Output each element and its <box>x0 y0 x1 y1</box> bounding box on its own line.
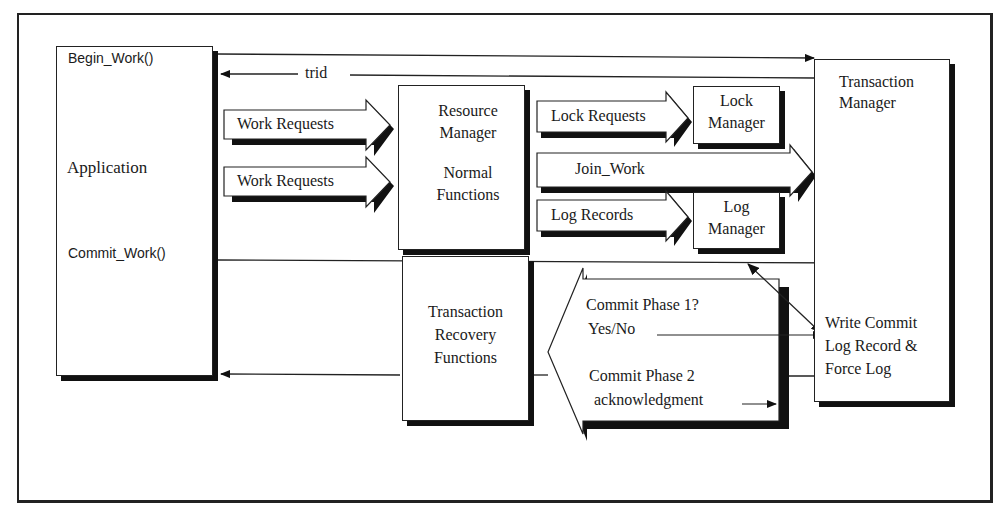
diagram-canvas: Begin_Work() Application Commit_Work() t… <box>0 0 1005 526</box>
recovery-line1: Transaction <box>402 300 529 323</box>
recovery-line2: Recovery <box>402 323 529 346</box>
lock-requests-label: Lock Requests <box>551 107 646 125</box>
lock-manager-line2: Manager <box>693 112 780 134</box>
normal-functions-line2: Functions <box>398 184 538 206</box>
log-manager-label: Log Manager <box>693 196 780 240</box>
write-commit-line1: Write Commit <box>825 311 917 334</box>
recovery-line3: Functions <box>402 346 529 369</box>
log-manager-line2: Manager <box>693 218 780 240</box>
application-label: Application <box>67 158 147 178</box>
commit-phase-arrow <box>548 268 789 441</box>
transaction-manager-label: Transaction Manager <box>839 71 914 113</box>
resource-manager-line2: Manager <box>398 122 538 144</box>
write-commit-line3: Force Log <box>825 357 917 380</box>
commit-work-label: Commit_Work() <box>68 245 166 261</box>
application-box <box>56 46 213 376</box>
begin-work-label: Begin_Work() <box>68 50 153 66</box>
log-records-label: Log Records <box>551 206 633 224</box>
write-commit-label: Write Commit Log Record & Force Log <box>825 311 917 380</box>
trid-label: trid <box>303 64 329 82</box>
write-commit-line2: Log Record & <box>825 334 917 357</box>
recovery-functions-label: Transaction Recovery Functions <box>402 300 529 369</box>
log-manager-line1: Log <box>693 196 780 218</box>
transaction-manager-line2: Manager <box>839 92 914 113</box>
normal-functions-line1: Normal <box>398 162 538 184</box>
transaction-manager-line1: Transaction <box>839 71 914 92</box>
work-requests-label-2: Work Requests <box>237 172 334 190</box>
lock-manager-line1: Lock <box>693 90 780 112</box>
resource-manager-label: Resource Manager Normal Functions <box>398 100 538 206</box>
commit-phase1-label: Commit Phase 1? <box>586 296 699 314</box>
lock-manager-label: Lock Manager <box>693 90 780 134</box>
resource-manager-line1: Resource <box>398 100 538 122</box>
join-work-label: Join_Work <box>575 160 645 178</box>
commit-phase2-label: Commit Phase 2 <box>589 367 695 385</box>
work-requests-label-1: Work Requests <box>237 115 334 133</box>
yes-no-label: Yes/No <box>588 320 635 338</box>
acknowledgment-label: acknowledgment <box>594 391 703 409</box>
